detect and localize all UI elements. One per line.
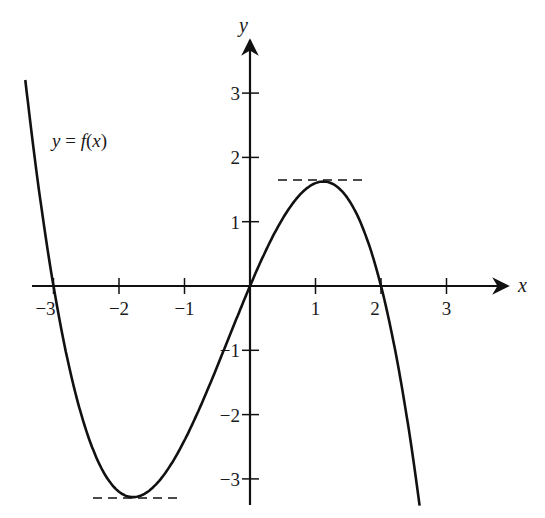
x-axis-label: x (517, 274, 527, 296)
x-tick-label: −2 (109, 298, 129, 319)
y-tick-label: 3 (231, 83, 241, 104)
y-tick-label: −3 (220, 469, 240, 490)
x-ticks: −3−2−1123 (35, 278, 451, 319)
x-tick-label: −1 (174, 298, 194, 319)
x-tick-label: 3 (442, 298, 452, 319)
y-axis-label: y (237, 14, 248, 37)
y-tick-label: −2 (220, 405, 240, 426)
function-label: y = f(x) (50, 130, 107, 152)
y-tick-label: 2 (231, 147, 241, 168)
x-tick-label: −3 (35, 298, 55, 319)
x-tick-label: 1 (311, 298, 321, 319)
function-graph: −3−2−1123 −3−2−1123 x y y = f(x) (0, 0, 545, 518)
x-tick-label: 2 (370, 298, 380, 319)
y-tick-label: 1 (231, 212, 241, 233)
